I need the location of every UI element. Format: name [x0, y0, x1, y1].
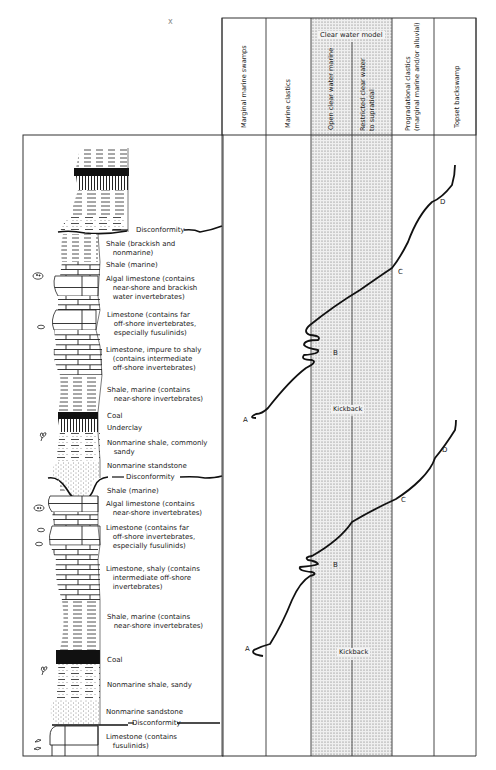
header-restricted-clear-water-line2: to supratidal [368, 89, 376, 131]
point-label-b-lower: B [333, 561, 338, 569]
point-label-d-upper: D [440, 198, 445, 206]
header-topset-backswamp: Topset backswamp [453, 66, 461, 128]
point-label-d-lower: D [442, 446, 447, 454]
header-marginal-marine-swamps: Marginal marine swamps [240, 45, 248, 128]
header-restricted-clear-water-line1: Restricted clear water [359, 58, 367, 131]
lithology-label: Nonmarine standstone [107, 462, 187, 471]
disconformity-leader [184, 226, 222, 232]
point-label-b-upper: B [333, 349, 338, 357]
clear-water-model-label: Clear water model [318, 31, 385, 39]
lithology-label: Shale (brackish and nonmarine) [106, 240, 175, 258]
kickback-label-upper: Kickback [331, 405, 364, 413]
lithology-label: Algal limestone (contains near-shore inv… [106, 500, 202, 518]
point-label-a-lower: A [245, 645, 250, 653]
lithology-label: Algal limestone (contains near-shore and… [106, 275, 197, 302]
header-progradational-clastics-line1: Progradational clastics [404, 56, 412, 131]
disconformity-leader [180, 476, 222, 478]
point-label-a-upper: A [243, 416, 248, 424]
lithology-label: Limestone (contains far off-shore invert… [106, 524, 195, 551]
kickback-label-lower: Kickback [337, 648, 370, 656]
lithology-label: Underclay [107, 424, 142, 433]
lithology-label: Shale (marine) [106, 261, 158, 270]
lithology-label: Limestone (contains far off-shore invert… [107, 311, 196, 338]
environment-grid [222, 18, 476, 756]
lithology-label: Disconformity [132, 719, 181, 728]
lithology-label: Nonmarine sandstone [106, 708, 183, 717]
lithology-label: Shale, marine (contains near-shore inver… [107, 386, 203, 404]
header-marine-clastics: Marine clastics [284, 79, 292, 128]
header-progradational-clastics-line2: (marginal marine and/or alluvial) [413, 22, 421, 131]
lithology-label: Shale, marine (contains near-shore inver… [107, 613, 203, 631]
lithology-label: Coal [107, 412, 122, 421]
lithology-label: Shale (marine) [107, 487, 159, 496]
header-open-clear-water-marine: Open clear water marine [327, 48, 335, 130]
lithology-label: Limestone (contains fusulinids) [106, 733, 177, 751]
fossil-symbols [33, 273, 47, 750]
stray-mark: x [168, 17, 173, 26]
lithology-label: Disconformity [126, 473, 175, 482]
lithology-label: Limestone, shaly (contains intermediate … [106, 565, 200, 592]
lithology-label: Disconformity [136, 226, 185, 235]
lithology-label: Nonmarine shale, sandy [107, 681, 192, 690]
lithology-label: Coal [107, 656, 122, 665]
cyclothem-diagram [0, 0, 496, 770]
point-label-c-lower: C [401, 496, 406, 504]
lithology-label: Nonmarine shale, commonly sandy [107, 439, 208, 457]
lithology-label: Limestone, impure to shaly (contains int… [106, 346, 201, 373]
point-label-c-upper: C [398, 268, 403, 276]
